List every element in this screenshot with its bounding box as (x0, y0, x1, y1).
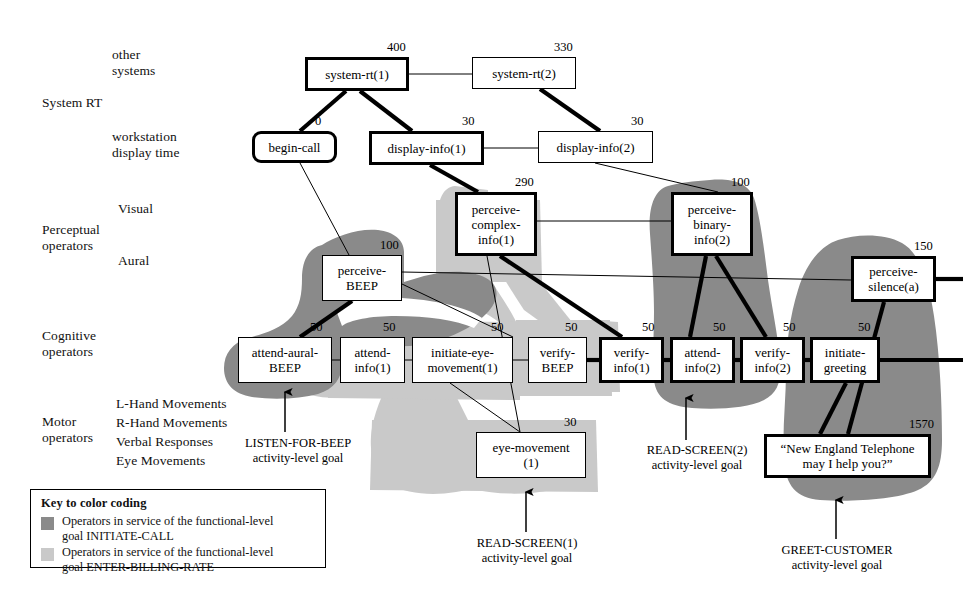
node-label-begin-call: begin-call (269, 140, 321, 155)
axis-label-system-rt: System RT (42, 95, 102, 111)
legend-row-enter-billing-rate: Operators in service of the functional-l… (41, 545, 317, 574)
node-attend-aural-beep[interactable]: attend-aural- BEEP (238, 337, 332, 383)
node-label-greeting-utterance: “New England Telephone may I help you?” (781, 441, 915, 471)
node-label-perceive-silence-a: perceive- silence(a) (868, 264, 919, 294)
axis-label-motor-operators: Motor operators (42, 414, 93, 446)
goal-name-greet-customer: GREET-CUSTOMER (767, 543, 907, 558)
node-eye-movement-1[interactable]: eye-movement (1) (476, 432, 586, 478)
axis-label-verbal-responses: Verbal Responses (116, 434, 213, 450)
node-label-verify-info-1: verify- info(1) (613, 345, 649, 375)
axis-label-r-hand-movements: R-Hand Movements (116, 415, 227, 431)
axis-label-l-hand-movements: L-Hand Movements (116, 396, 227, 412)
duration-initiate-eye-movement-1: 50 (491, 320, 504, 335)
node-label-verify-beep: verify- BEEP (540, 345, 575, 375)
node-label-display-info-2: display-info(2) (557, 140, 635, 155)
node-system-rt-1[interactable]: system-rt(1) (305, 57, 409, 91)
node-perceive-binary-info-2[interactable]: perceive- binary- info(2) (671, 192, 753, 256)
legend-swatch-enter-billing-rate (41, 548, 54, 561)
duration-begin-call: 0 (315, 114, 321, 129)
node-verify-beep[interactable]: verify- BEEP (528, 337, 587, 383)
legend-text-initiate-call: Operators in service of the functional-l… (62, 514, 273, 543)
node-label-perceive-beep: perceive- BEEP (338, 263, 386, 293)
node-label-eye-movement-1: eye-movement (1) (492, 440, 569, 470)
axis-label-perceptual-operators: Perceptual operators (42, 222, 100, 254)
duration-eye-movement-1: 30 (564, 415, 577, 430)
duration-perceive-beep: 100 (380, 238, 399, 253)
node-label-verify-info-2: verify- info(2) (754, 345, 790, 375)
duration-display-info-1: 30 (462, 114, 475, 129)
goal-type-read-screen-1: activity-level goal (463, 551, 591, 566)
goal-annotation-read-screen-1: READ-SCREEN(1)activity-level goal (463, 536, 591, 566)
node-display-info-1[interactable]: display-info(1) (369, 131, 484, 165)
goal-name-read-screen-2: READ-SCREEN(2) (633, 443, 761, 458)
duration-system-rt-1: 400 (387, 40, 406, 55)
node-label-system-rt-1: system-rt(1) (325, 67, 389, 82)
goal-annotation-read-screen-2: READ-SCREEN(2)activity-level goal (633, 443, 761, 473)
duration-verify-info-2: 50 (783, 320, 796, 335)
duration-greeting-utterance: 1570 (909, 417, 934, 432)
duration-perceive-complex-info-1: 290 (515, 175, 534, 190)
node-label-attend-info-1: attend- info(1) (354, 345, 390, 375)
node-initiate-eye-movement-1[interactable]: initiate-eye- movement(1) (412, 337, 513, 383)
node-attend-info-2[interactable]: attend- info(2) (670, 337, 735, 383)
node-system-rt-2[interactable]: system-rt(2) (472, 57, 576, 89)
duration-attend-info-2: 50 (713, 320, 726, 335)
edge-begin-call-to-perceive-beep (300, 163, 349, 255)
legend-title: Key to color coding (41, 496, 317, 511)
edge-system-rt-1-to-display-info-1 (360, 91, 412, 131)
goal-type-greet-customer: activity-level goal (767, 558, 907, 573)
node-perceive-beep[interactable]: perceive- BEEP (322, 255, 402, 301)
duration-perceive-silence-a: 150 (914, 239, 933, 254)
node-label-attend-aural-beep: attend-aural- BEEP (252, 345, 318, 375)
duration-system-rt-2: 330 (554, 40, 573, 55)
duration-attend-aural-beep: 50 (310, 320, 323, 335)
node-label-attend-info-2: attend- info(2) (684, 345, 720, 375)
legend-text-enter-billing-rate: Operators in service of the functional-l… (62, 545, 273, 574)
node-perceive-complex-info-1[interactable]: perceive- complex- info(1) (455, 192, 537, 256)
node-display-info-2[interactable]: display-info(2) (538, 131, 653, 163)
goal-type-listen-for-beep: activity-level goal (232, 451, 364, 466)
node-verify-info-2[interactable]: verify- info(2) (740, 337, 805, 383)
axis-label-workstation-display: workstation display time (112, 129, 180, 161)
goal-annotation-greet-customer: GREET-CUSTOMERactivity-level goal (767, 543, 907, 573)
duration-verify-beep: 50 (565, 320, 578, 335)
node-label-initiate-greeting: initiate- greeting (824, 345, 867, 375)
duration-perceive-binary-info-2: 100 (731, 175, 750, 190)
goal-name-read-screen-1: READ-SCREEN(1) (463, 536, 591, 551)
axis-label-other-systems: other systems (112, 47, 155, 79)
axis-label-visual: Visual (118, 201, 153, 217)
duration-verify-info-1: 50 (642, 320, 655, 335)
duration-display-info-2: 30 (631, 114, 644, 129)
edge-system-rt-2-to-display-info-2 (540, 89, 600, 131)
node-begin-call[interactable]: begin-call (252, 131, 337, 163)
axis-label-eye-movements: Eye Movements (116, 453, 205, 469)
duration-attend-info-1: 50 (383, 320, 396, 335)
legend-row-initiate-call: Operators in service of the functional-l… (41, 514, 317, 543)
node-verify-info-1[interactable]: verify- info(1) (599, 337, 664, 383)
edge-system-rt-1-to-begin-call (300, 91, 346, 131)
duration-initiate-greeting: 50 (858, 320, 871, 335)
goal-annotation-listen-for-beep: LISTEN-FOR-BEEPactivity-level goal (232, 436, 364, 466)
goal-name-listen-for-beep: LISTEN-FOR-BEEP (232, 436, 364, 451)
node-initiate-greeting[interactable]: initiate- greeting (810, 337, 880, 383)
edge-display-info-2-to-pbinary (595, 163, 718, 192)
legend-box: Key to color coding Operators in service… (30, 489, 326, 568)
axis-label-aural: Aural (118, 253, 149, 269)
diagram-canvas: other systemsSystem RTworkstation displa… (0, 0, 970, 614)
node-label-system-rt-2: system-rt(2) (492, 66, 556, 81)
node-label-initiate-eye-movement-1: initiate-eye- movement(1) (427, 345, 497, 375)
goal-type-read-screen-2: activity-level goal (633, 458, 761, 473)
axis-label-cognitive-operators: Cognitive operators (42, 328, 96, 360)
node-greeting-utterance[interactable]: “New England Telephone may I help you?” (764, 434, 931, 478)
node-perceive-silence-a[interactable]: perceive- silence(a) (851, 256, 936, 302)
node-attend-info-1[interactable]: attend- info(1) (340, 337, 405, 383)
node-label-perceive-complex-info-1: perceive- complex- info(1) (471, 202, 520, 247)
legend-rows: Operators in service of the functional-l… (41, 514, 317, 574)
legend-swatch-initiate-call (41, 517, 54, 530)
node-label-display-info-1: display-info(1) (388, 141, 466, 156)
node-label-perceive-binary-info-2: perceive- binary- info(2) (688, 202, 736, 247)
